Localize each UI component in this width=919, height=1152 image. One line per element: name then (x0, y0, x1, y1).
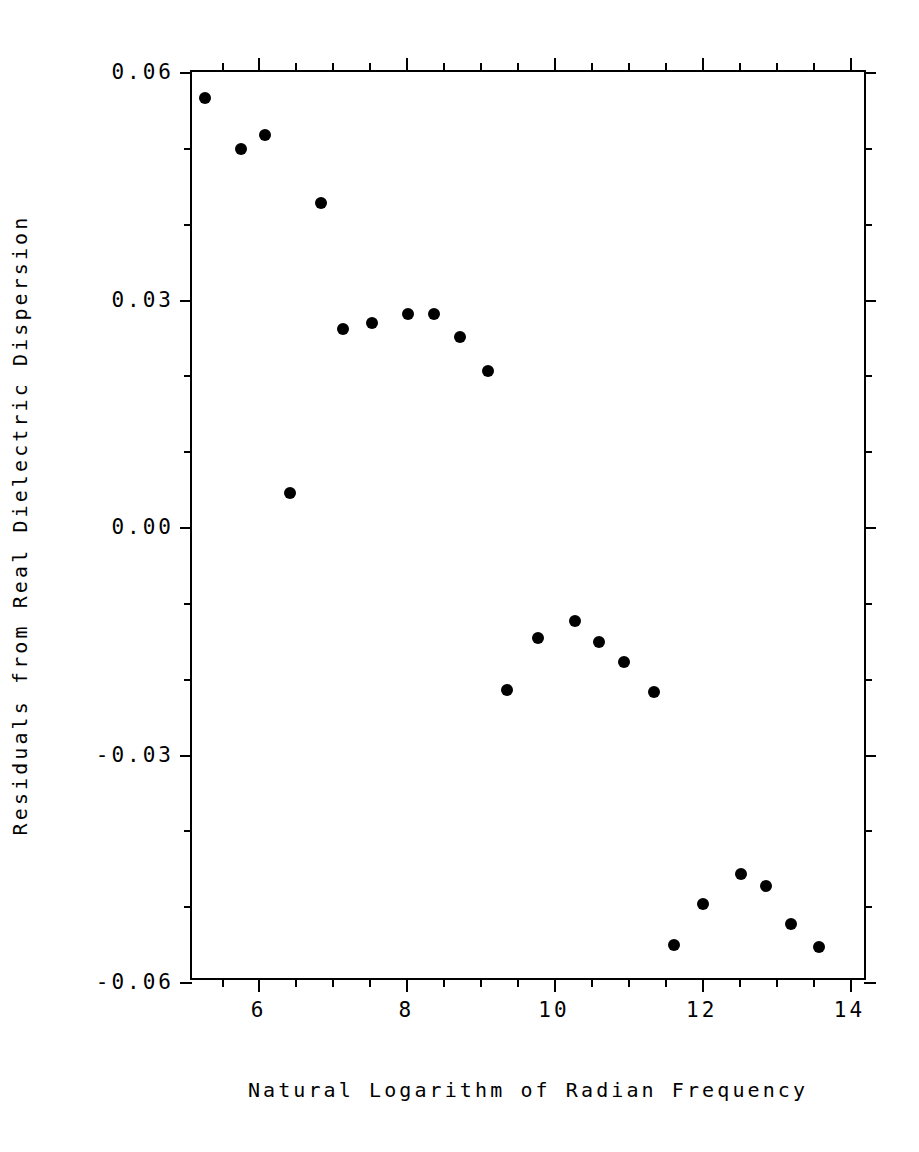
x-minor-tick (813, 63, 815, 72)
x-tick-label: 14 (834, 1000, 865, 1021)
y-major-tick (180, 72, 192, 74)
x-tick-label: 6 (251, 1000, 267, 1021)
data-point (760, 880, 772, 892)
x-minor-tick (443, 63, 445, 72)
y-minor-tick (864, 375, 872, 377)
y-major-tick (864, 72, 876, 74)
x-minor-tick (739, 978, 741, 987)
y-major-tick (864, 982, 876, 984)
y-axis-title: Residuals from Real Dielectric Dispersio… (0, 70, 40, 980)
data-point (235, 143, 247, 155)
data-point (735, 868, 747, 880)
x-minor-tick (222, 978, 224, 987)
data-point (366, 317, 378, 329)
data-point (569, 615, 581, 627)
y-minor-tick (184, 451, 192, 453)
y-minor-tick (864, 451, 872, 453)
x-major-tick (554, 58, 556, 72)
y-minor-tick (864, 679, 872, 681)
y-minor-tick (864, 906, 872, 908)
y-tick-label: 0.00 (111, 517, 174, 538)
data-point (199, 92, 211, 104)
x-major-tick (554, 978, 556, 992)
data-point (482, 365, 494, 377)
x-tick-label: 12 (686, 1000, 717, 1021)
y-tick-label: -0.06 (96, 972, 174, 993)
x-major-tick (258, 978, 260, 992)
x-minor-tick (591, 978, 593, 987)
data-point (532, 632, 544, 644)
x-minor-tick (295, 63, 297, 72)
x-minor-tick (369, 63, 371, 72)
y-minor-tick (184, 603, 192, 605)
x-minor-tick (295, 978, 297, 987)
y-minor-tick (864, 148, 872, 150)
data-point (454, 331, 466, 343)
x-minor-tick (813, 978, 815, 987)
x-minor-tick (776, 978, 778, 987)
plot-area: 0.060.030.00-0.03-0.06 68101214 (190, 70, 866, 980)
x-major-tick (258, 58, 260, 72)
data-point (315, 197, 327, 209)
data-point (428, 308, 440, 320)
y-minor-tick (184, 375, 192, 377)
x-minor-tick (739, 63, 741, 72)
x-minor-tick (332, 63, 334, 72)
data-point (284, 487, 296, 499)
x-minor-tick (628, 978, 630, 987)
x-minor-tick (369, 978, 371, 987)
y-major-tick (180, 527, 192, 529)
x-minor-tick (443, 978, 445, 987)
x-minor-tick (665, 63, 667, 72)
data-point (259, 129, 271, 141)
y-major-tick (864, 300, 876, 302)
x-minor-tick (517, 63, 519, 72)
x-minor-tick (517, 978, 519, 987)
x-minor-tick (628, 63, 630, 72)
data-point (337, 323, 349, 335)
x-minor-tick (480, 978, 482, 987)
x-minor-tick (591, 63, 593, 72)
y-minor-tick (184, 830, 192, 832)
data-point (668, 939, 680, 951)
x-major-tick (702, 58, 704, 72)
y-minor-tick (184, 679, 192, 681)
y-minor-tick (184, 906, 192, 908)
data-point (501, 684, 513, 696)
x-tick-label: 10 (538, 1000, 569, 1021)
x-major-tick (850, 58, 852, 72)
y-minor-tick (184, 224, 192, 226)
data-point (648, 686, 660, 698)
x-major-tick (406, 978, 408, 992)
x-tick-label: 8 (398, 1000, 414, 1021)
y-major-tick (180, 300, 192, 302)
data-point (813, 941, 825, 953)
x-minor-tick (665, 978, 667, 987)
y-minor-tick (864, 224, 872, 226)
scatter-plot-figure: 0.060.030.00-0.03-0.06 68101214 Natural … (0, 0, 919, 1152)
y-major-tick (864, 527, 876, 529)
data-point (402, 308, 414, 320)
data-point (697, 898, 709, 910)
x-major-tick (850, 978, 852, 992)
y-major-tick (180, 982, 192, 984)
y-minor-tick (864, 603, 872, 605)
x-axis-title: Natural Logarithm of Radian Frequency (190, 1078, 866, 1102)
y-minor-tick (184, 148, 192, 150)
y-major-tick (864, 755, 876, 757)
y-tick-label: 0.06 (111, 62, 174, 83)
y-tick-label: -0.03 (96, 744, 174, 765)
y-tick-label: 0.03 (111, 289, 174, 310)
x-major-tick (702, 978, 704, 992)
x-major-tick (406, 58, 408, 72)
data-point (618, 656, 630, 668)
x-minor-tick (776, 63, 778, 72)
data-point (785, 918, 797, 930)
x-minor-tick (332, 978, 334, 987)
data-point (593, 636, 605, 648)
x-minor-tick (222, 63, 224, 72)
y-major-tick (180, 755, 192, 757)
x-minor-tick (480, 63, 482, 72)
y-minor-tick (864, 830, 872, 832)
